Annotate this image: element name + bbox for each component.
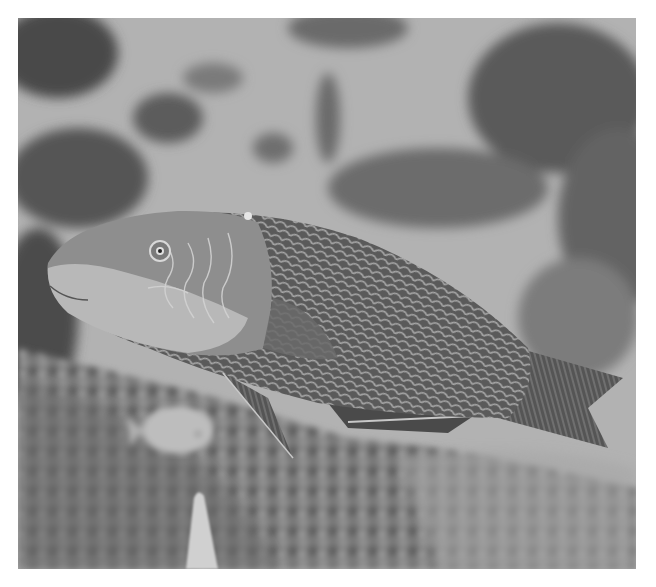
fish-photo-illustration: [18, 18, 636, 569]
fish-photo: [18, 18, 636, 569]
